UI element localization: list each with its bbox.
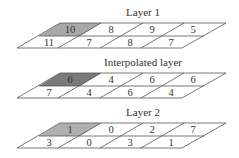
cell: 5 — [190, 24, 195, 35]
cell: 11 — [44, 37, 54, 48]
cell: 8 — [127, 37, 132, 48]
cell: 4 — [86, 87, 92, 98]
cell: 9 — [149, 24, 154, 35]
cell: 7 — [190, 124, 195, 135]
cell: 4 — [108, 74, 114, 85]
cell: 7 — [46, 87, 51, 98]
layer-interpolated: Interpolated layer 6 4 6 6 7 4 6 4 — [17, 56, 226, 98]
layer-title: Layer 1 — [126, 6, 160, 18]
layer-1: Layer 1 10 8 9 5 11 7 8 7 — [17, 6, 226, 48]
cell: 8 — [108, 24, 113, 35]
cell: 0 — [86, 137, 91, 148]
cell: 3 — [127, 137, 132, 148]
cell: 1 — [67, 124, 72, 135]
cell: 4 — [168, 87, 174, 98]
cell: 2 — [149, 124, 154, 135]
layered-grid-diagram: Layer 1 10 8 9 5 11 7 8 7 Interpolated l… — [0, 0, 239, 158]
cell: 1 — [168, 137, 173, 148]
layer-title: Interpolated layer — [104, 56, 182, 68]
cell: 6 — [67, 74, 72, 85]
cell: 7 — [168, 37, 173, 48]
cell: 6 — [190, 74, 195, 85]
cell: 6 — [149, 74, 154, 85]
cell: 6 — [127, 87, 132, 98]
cell: 10 — [65, 24, 76, 35]
layer-2: Layer 2 1 0 2 7 3 0 3 1 — [17, 106, 226, 148]
cell: 7 — [86, 37, 91, 48]
cell: 0 — [108, 124, 113, 135]
layer-title: Layer 2 — [126, 106, 160, 118]
cell: 3 — [46, 137, 51, 148]
